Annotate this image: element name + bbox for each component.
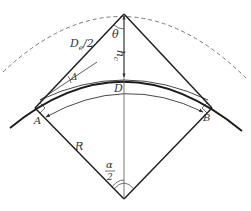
thick-arc bbox=[10, 82, 242, 131]
dashed-circle-arc bbox=[3, 16, 246, 78]
label-R: R bbox=[74, 140, 83, 153]
label-B: B bbox=[202, 112, 210, 123]
radius-right bbox=[124, 108, 212, 199]
label-alpha-denominator: 2 bbox=[106, 172, 113, 182]
geometry-diagram: θ De/2 hc Δ D A B R α 2 bbox=[0, 0, 251, 211]
label-alpha: α bbox=[106, 159, 113, 170]
label-de-half: De/2 bbox=[69, 37, 94, 52]
delta-line bbox=[40, 62, 97, 100]
label-theta: θ bbox=[112, 28, 119, 41]
label-delta: Δ bbox=[70, 72, 78, 82]
label-hc: hc bbox=[112, 50, 127, 61]
label-A: A bbox=[33, 115, 41, 126]
label-D: D bbox=[113, 82, 123, 95]
radius-left bbox=[35, 108, 124, 199]
tangent-left bbox=[35, 14, 124, 108]
D-dimension-arrow bbox=[46, 94, 203, 117]
